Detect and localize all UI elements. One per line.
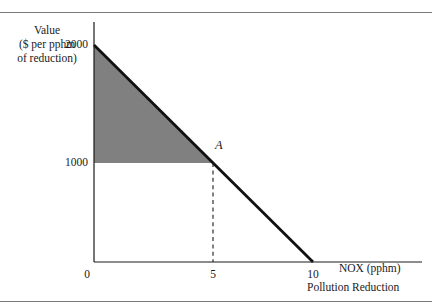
x-tick-label-0: 0 xyxy=(79,268,95,282)
x-axis-subtitle: Pollution Reduction xyxy=(307,281,399,295)
point-a-label: A xyxy=(215,138,223,153)
x-tick-label-5: 5 xyxy=(205,268,221,282)
y-tick-label-2000: 2000 xyxy=(52,38,88,52)
y-tick-label-1000: 1000 xyxy=(52,156,88,170)
y-axis-title-line-3: of reduction) xyxy=(8,51,86,65)
x-axis-title: NOX (pphm) xyxy=(339,262,401,276)
figure-container: Value ($ per pphm of reduction) 2000 100… xyxy=(0,0,432,308)
y-axis-title-line-1: Value xyxy=(8,23,86,37)
x-tick-label-10: 10 xyxy=(303,268,323,282)
